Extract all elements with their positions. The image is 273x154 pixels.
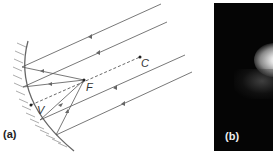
panel-b-label: (b)	[225, 130, 239, 142]
reflected-rays	[22, 67, 84, 135]
mirror-photo: (b)	[214, 3, 273, 151]
vertex-point	[30, 104, 33, 107]
vertex-label: V	[37, 104, 44, 116]
photo-detail	[234, 69, 273, 99]
panel-a-label: (a)	[3, 128, 16, 140]
incident-rays	[22, 4, 192, 135]
focus-label: F	[86, 81, 93, 93]
center-label: C	[141, 57, 149, 69]
